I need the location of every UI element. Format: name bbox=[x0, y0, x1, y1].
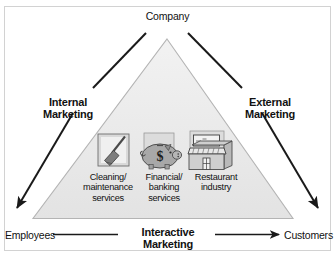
internal-marketing-label: Internal Marketing bbox=[24, 96, 112, 121]
services-marketing-triangle-figure: $ Company Internal Marketing External Ma… bbox=[0, 0, 335, 255]
employees-label: Employees bbox=[5, 230, 55, 241]
dollar-glyph: $ bbox=[157, 149, 164, 164]
restaurant-industry-label: Restaurant industry bbox=[188, 172, 244, 193]
broom-icon bbox=[98, 134, 129, 166]
cleaning-services-label: Cleaning/ maintenance services bbox=[77, 172, 139, 203]
financial-services-label: Financial/ banking services bbox=[136, 172, 192, 203]
external-marketing-label: External Marketing bbox=[226, 96, 314, 121]
customers-label: Customers bbox=[284, 230, 333, 241]
company-label: Company bbox=[0, 11, 335, 22]
diagram-canvas: $ bbox=[0, 0, 335, 255]
interactive-marketing-label: Interactive Marketing bbox=[123, 226, 213, 251]
